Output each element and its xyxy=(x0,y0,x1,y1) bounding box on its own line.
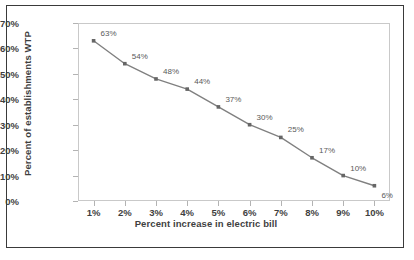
data-point-label: 54% xyxy=(132,51,148,60)
data-point-label: 10% xyxy=(350,163,366,172)
chart-frame: Percent of establishments WTP Percent in… xyxy=(6,5,404,248)
data-point-marker xyxy=(92,39,96,43)
data-point-marker xyxy=(310,156,314,160)
data-point-marker xyxy=(123,62,127,66)
data-point-marker xyxy=(341,174,345,178)
data-point-label: 63% xyxy=(101,28,117,37)
data-point-marker xyxy=(373,184,377,188)
data-point-marker xyxy=(154,77,158,81)
data-point-label: 25% xyxy=(288,125,304,134)
series-line xyxy=(94,41,375,186)
data-point-marker xyxy=(185,87,189,91)
data-point-marker xyxy=(279,136,283,140)
data-point-label: 30% xyxy=(257,112,273,121)
data-point-label: 44% xyxy=(194,77,210,86)
series-line-chart xyxy=(7,6,405,249)
data-point-label: 17% xyxy=(319,145,335,154)
data-point-marker xyxy=(217,105,221,109)
series-markers xyxy=(92,39,376,188)
data-point-marker xyxy=(248,123,252,127)
data-point-label: 37% xyxy=(225,94,241,103)
data-point-label: 6% xyxy=(381,190,393,199)
data-point-label: 48% xyxy=(163,66,179,75)
